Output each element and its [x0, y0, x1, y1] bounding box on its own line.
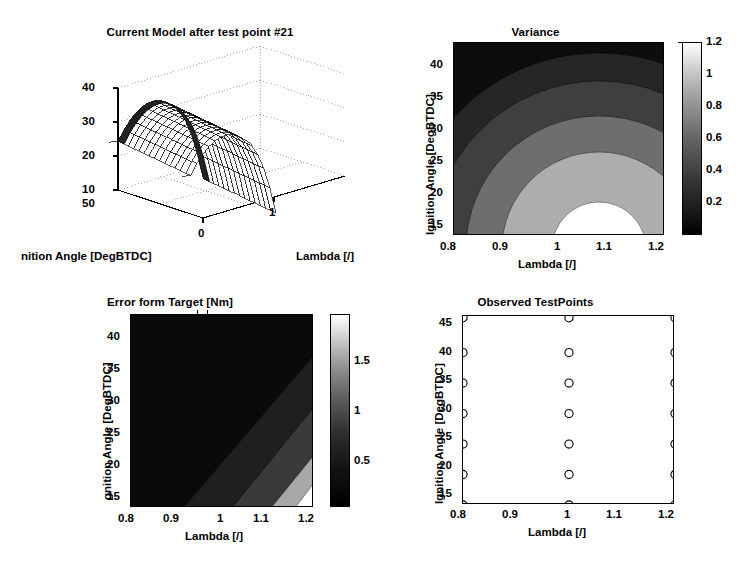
scatter-point — [565, 440, 573, 448]
scatter-point — [671, 379, 674, 387]
variance-xtick-10: 1 — [554, 240, 560, 252]
variance-contour-svg — [454, 43, 664, 235]
scatter-point — [671, 501, 674, 504]
scatter-point — [463, 316, 467, 322]
model3d-xlabel: Lambda [/] — [296, 250, 354, 262]
variance-cbtick-12: 1.2 — [706, 35, 722, 47]
testpoints-xtick-09: 0.9 — [502, 508, 518, 520]
variance-xtick-11: 1.1 — [596, 240, 612, 252]
variance-cbtick-1: 1 — [706, 67, 712, 79]
variance-cbtick-02: 0.2 — [706, 195, 722, 207]
scatter-point — [671, 316, 674, 322]
model3d-xtick-0: 0 — [198, 227, 204, 239]
model3d-surface-plot — [0, 0, 400, 288]
model3d-ytick-50: 50 — [82, 197, 95, 209]
testpoints-svg — [463, 316, 674, 504]
variance-colorbar — [682, 42, 702, 235]
variance-cbtick-06: 0.6 — [706, 131, 722, 143]
scatter-point — [463, 440, 467, 448]
testpoints-scatter — [462, 315, 674, 504]
error-heatmap — [130, 314, 313, 507]
panel-current-model: Current Model after test point #21 — [0, 0, 400, 288]
testpoints-ytick-40: 40 — [439, 345, 452, 357]
panel-variance: Variance 15 20 25 30 35 — [400, 0, 751, 288]
testpoints-xtick-12: 1.2 — [658, 508, 674, 520]
testpoints-xtick-11: 1.1 — [606, 508, 622, 520]
scatter-point — [463, 501, 467, 504]
variance-xlabel: Lambda [/] — [518, 258, 576, 270]
panel-testpoints: Observed TestPoints 15 20 25 30 35 40 45… — [400, 288, 751, 576]
error-contour-svg — [131, 315, 313, 507]
testpoints-xtick-10: 1 — [564, 508, 570, 520]
error-xlabel: Lambda [/] — [185, 530, 243, 542]
scatter-point — [463, 348, 467, 356]
model3d-ztick-10: 10 — [82, 183, 95, 195]
scatter-point — [565, 316, 573, 322]
model3d-ztick-30: 30 — [82, 115, 95, 127]
model3d-ztick-20: 20 — [82, 149, 95, 161]
variance-cbtick-08: 0.8 — [706, 99, 722, 111]
error-ylabel: gnition Angle [DegBTDC] — [101, 362, 113, 500]
error-ytick-40: 40 — [107, 330, 120, 342]
variance-xtick-08: 0.8 — [440, 240, 456, 252]
scatter-point — [565, 470, 573, 478]
model3d-ztick-40: 40 — [82, 81, 95, 93]
testpoints-xtick-08: 0.8 — [450, 508, 466, 520]
variance-ylabel: Ignition Angle [DegBTDC] — [424, 94, 436, 235]
scatter-point — [565, 501, 573, 504]
scatter-point — [671, 470, 674, 478]
error-xtick-11: 1.1 — [253, 512, 269, 524]
variance-cbtick-04: 0.4 — [706, 163, 722, 175]
model3d-xtick-1: 1 — [269, 206, 275, 218]
error-cbtick-15: 1.5 — [354, 354, 370, 366]
scatter-point — [671, 440, 674, 448]
testpoints-ylabel: Ignition Angle [DegBTDC] — [433, 363, 445, 504]
error-xtick-12: 1.2 — [298, 512, 314, 524]
variance-ytick-40: 40 — [430, 58, 443, 70]
panel-error: Error form Target [Nm] 15 20 25 30 35 40 — [0, 288, 400, 576]
testpoints-xlabel: Lambda [/] — [528, 526, 586, 538]
scatter-point — [565, 348, 573, 356]
variance-xtick-09: 0.9 — [492, 240, 508, 252]
error-cbtick-1: 1 — [354, 404, 360, 416]
model3d-ylabel: nition Angle [DegBTDC] — [21, 250, 152, 262]
scatter-point — [463, 379, 467, 387]
error-xtick-09: 0.9 — [163, 512, 179, 524]
scatter-point — [565, 409, 573, 417]
scatter-point — [565, 379, 573, 387]
scatter-point — [671, 409, 674, 417]
variance-xtick-12: 1.2 — [648, 240, 664, 252]
scatter-point — [463, 409, 467, 417]
error-xtick-08: 0.8 — [118, 512, 134, 524]
variance-heatmap — [453, 42, 664, 235]
error-colorbar — [330, 314, 350, 507]
error-cbtick-05: 0.5 — [354, 454, 370, 466]
testpoints-ytick-45: 45 — [439, 316, 452, 328]
variance-title: Variance — [360, 26, 711, 38]
scatter-point — [671, 348, 674, 356]
error-xtick-10: 1 — [217, 512, 223, 524]
error-title-notch — [197, 310, 208, 315]
scatter-point — [463, 470, 467, 478]
testpoints-title: Observed TestPoints — [360, 296, 711, 308]
error-title: Error form Target [Nm] — [0, 296, 370, 308]
